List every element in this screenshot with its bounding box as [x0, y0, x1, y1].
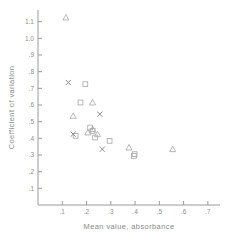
y-tick-label: .1 — [29, 185, 35, 192]
x-axis-ticks: .1.2.3.4.5.6.7 — [60, 201, 211, 215]
y-axis-ticks: .1.2.3.4.5.6.7.8.91.01.1 — [25, 18, 42, 192]
scatter-chart-figure: .1.2.3.4.5.6.7 .1.2.3.4.5.6.7.8.91.01.1 … — [0, 0, 227, 235]
data-point-triangle — [70, 113, 76, 118]
x-tick-label: .6 — [181, 208, 187, 215]
y-tick-label: .8 — [29, 68, 35, 75]
y-tick-label: .4 — [29, 135, 35, 142]
x-tick-label: .2 — [84, 208, 90, 215]
data-points — [63, 15, 176, 159]
x-tick-label: .5 — [157, 208, 163, 215]
axes — [38, 10, 220, 205]
data-point-x — [100, 147, 105, 152]
x-tick-label: .3 — [108, 208, 114, 215]
y-tick-label: .2 — [29, 168, 35, 175]
y-tick-label: .9 — [29, 51, 35, 58]
y-axis-title: Coefficient of variation — [7, 66, 16, 150]
data-point-square — [107, 138, 112, 143]
chart-canvas: .1.2.3.4.5.6.7 .1.2.3.4.5.6.7.8.91.01.1 … — [0, 0, 227, 235]
data-point-triangle — [126, 145, 132, 150]
data-point-triangle — [90, 100, 96, 105]
x-axis-title: Mean value, absorbance — [84, 222, 175, 231]
y-tick-label: .7 — [29, 85, 35, 92]
y-tick-label: .5 — [29, 118, 35, 125]
y-tick-label: .3 — [29, 151, 35, 158]
y-tick-label: .6 — [29, 101, 35, 108]
y-tick-label: 1.0 — [25, 35, 34, 42]
x-tick-label: .4 — [132, 208, 138, 215]
data-point-x — [97, 112, 102, 117]
x-tick-label: .7 — [205, 208, 211, 215]
data-point-triangle — [63, 15, 69, 20]
data-point-square — [73, 133, 78, 138]
data-point-square — [78, 100, 83, 105]
y-tick-label: 1.1 — [25, 18, 34, 25]
data-point-triangle — [170, 146, 176, 151]
data-point-x — [66, 80, 71, 85]
data-point-square — [83, 82, 88, 87]
x-tick-label: .1 — [60, 208, 66, 215]
